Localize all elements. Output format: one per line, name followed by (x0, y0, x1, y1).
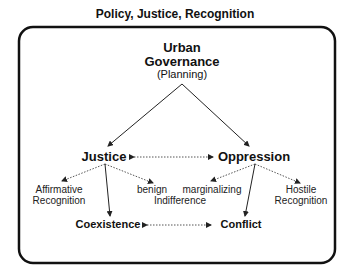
node-planning: (Planning) (157, 69, 207, 81)
label-marginalizing: marginalizing (183, 185, 242, 196)
node-conflict: Conflict (221, 219, 262, 231)
node-governance: Governance (144, 55, 219, 69)
label-affirmative: Affirmative (35, 185, 82, 196)
node-justice: Justice (82, 150, 127, 164)
node-urban: Urban (163, 41, 201, 55)
node-oppression: Oppression (218, 150, 290, 164)
label-benign: benign (137, 185, 167, 196)
label-indifference: Indifference (154, 196, 206, 207)
label-hostile-recognition: Recognition (275, 196, 328, 207)
label-affirmative-recognition: Recognition (33, 196, 86, 207)
diagram-title: Policy, Justice, Recognition (96, 8, 254, 21)
label-hostile: Hostile (286, 185, 317, 196)
node-coexistence: Coexistence (76, 219, 141, 231)
